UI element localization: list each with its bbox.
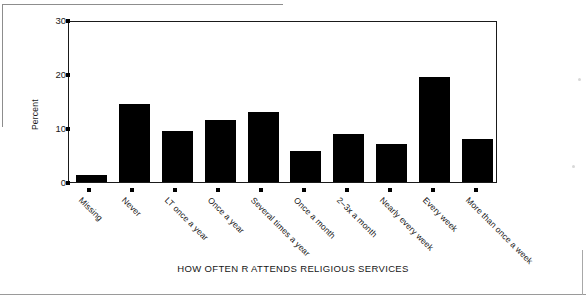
x-tick-label: Every week bbox=[421, 195, 460, 234]
x-tick-mark bbox=[474, 188, 478, 192]
bar bbox=[290, 151, 321, 182]
y-axis-tick-labels: 0102030 bbox=[36, 0, 66, 297]
x-tick-label: Once a year bbox=[206, 195, 247, 236]
bar bbox=[162, 131, 193, 182]
bar bbox=[205, 120, 236, 182]
bar-chart-figure: Percent 0102030 MissingNeverLT once a ye… bbox=[0, 0, 586, 297]
x-tick-label: Once a month bbox=[292, 195, 338, 241]
x-tick-label: LT once a year bbox=[163, 195, 211, 243]
y-tick-mark bbox=[66, 19, 70, 23]
x-tick-label: Missing bbox=[77, 195, 105, 223]
x-tick-mark bbox=[87, 188, 91, 192]
bar bbox=[248, 112, 279, 182]
bars-layer bbox=[69, 22, 496, 182]
y-tick-label: 30 bbox=[42, 16, 66, 26]
x-tick-label: Never bbox=[120, 195, 143, 218]
y-tick-label: 20 bbox=[42, 70, 66, 80]
y-tick-mark bbox=[66, 181, 70, 185]
plot-area bbox=[68, 21, 497, 183]
x-tick-label: More than once a week bbox=[463, 195, 534, 266]
x-tick-mark bbox=[345, 188, 349, 192]
y-tick-mark bbox=[66, 73, 70, 77]
bar bbox=[462, 139, 493, 182]
bar bbox=[76, 175, 107, 182]
bar bbox=[119, 104, 150, 182]
bar bbox=[419, 77, 450, 182]
x-tick-mark bbox=[130, 188, 134, 192]
x-tick-mark bbox=[302, 188, 306, 192]
y-tick-label: 10 bbox=[42, 124, 66, 134]
x-tick-mark bbox=[216, 188, 220, 192]
x-tick-label: 2–3x a month bbox=[335, 195, 379, 239]
x-tick-mark bbox=[173, 188, 177, 192]
y-tick-mark bbox=[66, 127, 70, 131]
bar bbox=[376, 144, 407, 182]
x-tick-mark bbox=[388, 188, 392, 192]
bar bbox=[333, 134, 364, 182]
x-tick-mark bbox=[431, 188, 435, 192]
x-axis-title: HOW OFTEN R ATTENDS RELIGIOUS SERVICES bbox=[0, 263, 586, 274]
y-tick-label: 0 bbox=[42, 178, 66, 188]
x-tick-mark bbox=[259, 188, 263, 192]
